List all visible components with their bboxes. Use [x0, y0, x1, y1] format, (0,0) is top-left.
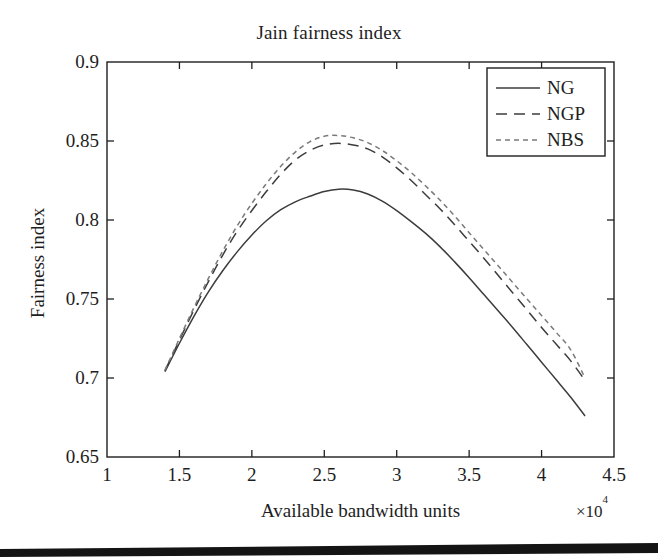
figure-canvas: Jain fairness index Fairness index Avail… — [0, 0, 658, 558]
legend-label-nbs: NBS — [547, 129, 584, 151]
x-axis-tick-label: 3.5 — [457, 464, 481, 486]
y-axis-tick-label: 0.7 — [75, 367, 99, 389]
x-axis-tick-label: 4.5 — [602, 464, 626, 486]
legend-label-ngp: NGP — [547, 103, 585, 125]
x-axis-tick-label: 2 — [247, 464, 257, 486]
x-axis-exponent-prefix: ×10 — [576, 502, 603, 521]
y-axis-tick-label: 0.85 — [66, 130, 99, 152]
series-line-nbs — [165, 135, 585, 378]
y-axis-tick-label: 0.65 — [66, 446, 99, 468]
x-axis-tick-label: 3 — [392, 464, 402, 486]
x-axis-tick-label: 2.5 — [312, 464, 336, 486]
x-axis-tick-label: 1 — [102, 464, 112, 486]
x-axis-tick-label: 4 — [537, 464, 547, 486]
legend-label-ng: NG — [547, 77, 574, 99]
y-axis-label: Fairness index — [27, 163, 49, 363]
series-line-ng — [165, 189, 585, 416]
x-axis-exponent: ×104 — [576, 500, 608, 522]
legend-box — [487, 68, 605, 156]
x-axis-label: Available bandwidth units — [107, 500, 614, 522]
y-axis-tick-label: 0.75 — [66, 288, 99, 310]
y-axis-tick-label: 0.9 — [75, 51, 99, 73]
series-line-ngp — [165, 143, 585, 380]
x-axis-exponent-power: 4 — [603, 493, 609, 505]
y-axis-tick-label: 0.8 — [75, 209, 99, 231]
scan-edge-bar — [0, 543, 658, 557]
chart-title: Jain fairness index — [0, 22, 658, 44]
x-axis-tick-label: 1.5 — [168, 464, 192, 486]
